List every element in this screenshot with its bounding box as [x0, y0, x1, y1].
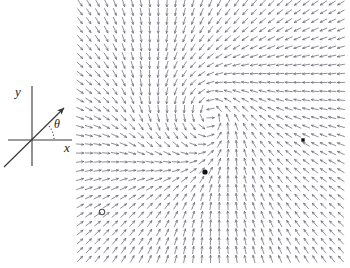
field-arrow-head [160, 203, 161, 205]
field-arrow-head [252, 4, 253, 6]
figure-root: y x θ [0, 0, 350, 268]
theta-arc-tick [53, 135, 54, 136]
theta-arc-tick [52, 132, 53, 133]
field-arrow-head [81, 67, 83, 68]
theta-arc-tick [51, 129, 52, 130]
field-arrow-head [134, 221, 135, 223]
field-arrow-head [312, 186, 314, 187]
field-arrow-head [285, 99, 287, 100]
field-arrow-head [159, 146, 161, 147]
spiral-point [202, 169, 207, 174]
field-arrow-head [243, 12, 244, 14]
field-arrow-head [321, 195, 323, 196]
field-arrow-head [98, 93, 100, 94]
field-arrow-head [91, 256, 92, 258]
y-axis-label: y [13, 84, 21, 99]
field-arrow-head [185, 247, 186, 249]
field-arrow-head [330, 204, 332, 205]
field-arrow-head [259, 90, 261, 91]
field-arrow-head [195, 177, 196, 179]
field-arrow-head [329, 116, 331, 117]
field-arrow-head [90, 136, 92, 137]
field-arrow-head [174, 31, 175, 33]
field-arrow-head [99, 247, 100, 249]
field-arrow-head [338, 212, 340, 213]
field-arrow-head [108, 145, 110, 146]
theta-arc-tick [53, 138, 54, 139]
field-arrow-head [183, 13, 184, 15]
theta-arc-tick [49, 126, 50, 127]
theta-angle-label: θ [54, 117, 60, 131]
field-arrow-head [191, 65, 192, 67]
x-axis-label: x [63, 140, 70, 155]
saddle-point [301, 138, 304, 141]
figure-canvas: y x θ [0, 0, 350, 268]
field-arrow-head [277, 142, 279, 143]
